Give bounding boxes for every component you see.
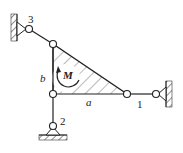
- joint-3-pin: [26, 26, 33, 33]
- joint-2-pin: [50, 123, 57, 130]
- label-moment: M: [62, 69, 74, 81]
- joint-right-pin: [124, 91, 131, 98]
- joint-corner-pin: [50, 91, 57, 98]
- label-2: 2: [60, 115, 66, 127]
- label-3: 3: [28, 13, 34, 25]
- joint-top-pin: [50, 41, 57, 48]
- label-b: b: [40, 72, 46, 84]
- wall-support-3: [11, 14, 26, 41]
- joint-1-pin: [153, 91, 160, 98]
- wall-support-1: [158, 81, 172, 107]
- link-3: [29, 29, 53, 44]
- label-1: 1: [137, 98, 143, 110]
- mechanism-diagram: 3 1 2 a b M: [0, 0, 183, 153]
- label-a: a: [86, 96, 92, 108]
